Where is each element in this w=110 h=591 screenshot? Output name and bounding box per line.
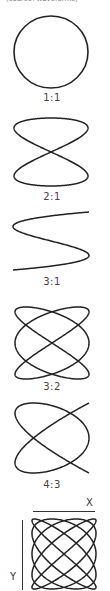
ratio-label-3-1: 3:1	[0, 276, 104, 287]
ratio-label-4-3: 4:3	[0, 479, 104, 490]
x-axis-label: X	[86, 497, 93, 508]
lissajous-2-1	[0, 116, 110, 188]
lissajous-3-2	[0, 305, 110, 381]
lissajous-1-1	[0, 14, 110, 92]
lissajous-4-3	[0, 401, 110, 475]
cutoff-caption: (source: waveforms)	[6, 0, 110, 3]
ratio-label-3-2: 3:2	[0, 381, 104, 392]
x-axis-line	[33, 511, 95, 512]
ratio-label-1-1: 1:1	[0, 92, 104, 103]
ratio-label-2-1: 2:1	[0, 191, 104, 202]
lissajous-5-4	[0, 517, 110, 591]
lissajous-3-1	[0, 210, 110, 272]
